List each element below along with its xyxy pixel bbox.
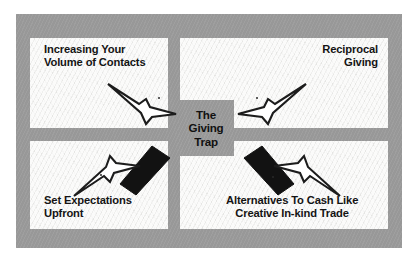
- quadrant-label-bottom-right-line-2: Creative In-kind Trade: [226, 207, 358, 220]
- center-node-giving-trap: The Giving Trap: [178, 100, 234, 156]
- dot-mark-top-left: [158, 97, 160, 99]
- quadrant-label-bottom-left-line-2: Upfront: [44, 207, 132, 220]
- center-line-1: The: [196, 108, 216, 122]
- quadrant-label-top-right-line-2: Giving: [322, 56, 378, 69]
- quadrant-label-top-left: Increasing Your Volume of Contacts: [44, 43, 146, 68]
- center-line-3: Trap: [194, 135, 218, 149]
- quadrant-label-bottom-left-line-1: Set Expectations: [44, 194, 132, 207]
- quadrant-label-top-right-line-1: Reciprocal: [322, 43, 378, 56]
- quadrant-label-top-right: Reciprocal Giving: [322, 43, 378, 68]
- center-line-2: Giving: [189, 121, 224, 135]
- quadrant-label-bottom-right-line-1: Alternatives To Cash Like: [226, 194, 358, 207]
- quadrant-label-top-left-line-2: Volume of Contacts: [44, 56, 146, 69]
- dot-mark-bottom-right: [272, 176, 274, 178]
- dot-mark-top-right: [256, 97, 258, 99]
- quadrant-label-bottom-left: Set Expectations Upfront: [44, 194, 132, 219]
- giving-trap-diagram: The Giving Trap Increasing Your Volume o…: [0, 0, 418, 273]
- dot-mark-bottom-left: [100, 174, 102, 176]
- quadrant-label-top-left-line-1: Increasing Your: [44, 43, 146, 56]
- quadrant-label-bottom-right: Alternatives To Cash Like Creative In-ki…: [226, 194, 358, 219]
